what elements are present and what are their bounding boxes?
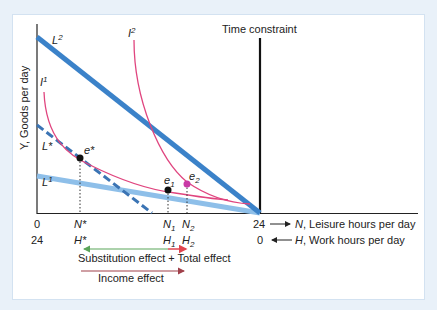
y-axis-label: Y, Goods per day xyxy=(18,65,30,150)
tick-N2: N2 xyxy=(182,218,195,233)
tick-H2: H2 xyxy=(182,234,195,249)
label-L2: L2 xyxy=(52,33,63,46)
time-constraint-label: Time constraint xyxy=(222,23,297,35)
label-estar: e* xyxy=(84,144,95,156)
tick-24: 24 xyxy=(253,218,265,230)
tick-h24: 24 xyxy=(31,234,43,246)
label-I2: I2 xyxy=(128,26,136,39)
tick-H1: H1 xyxy=(163,234,175,249)
tick-N1: N1 xyxy=(163,218,175,233)
label-I1: I1 xyxy=(40,75,48,88)
label-Lstar: L* xyxy=(42,140,53,152)
tick-0: 0 xyxy=(34,218,40,230)
tick-h0: 0 xyxy=(257,234,263,246)
label-e1: e1 xyxy=(164,174,175,189)
work-axis-label: H, Work hours per day xyxy=(295,234,405,246)
tick-Hstar: H* xyxy=(74,234,87,246)
income-effect-label: Income effect xyxy=(98,272,164,284)
leisure-axis-label: N, Leisure hours per day xyxy=(295,218,416,230)
label-e2: e2 xyxy=(189,170,200,185)
effects-label: Substitution effect + Total effect xyxy=(78,252,231,264)
point-estar xyxy=(77,155,84,162)
labor-leisure-chart: Time constraint L2 I2 I1 L* L1 e* e1 e2 … xyxy=(0,0,437,310)
tick-Nstar: N* xyxy=(74,218,87,230)
label-L1: L1 xyxy=(42,175,53,188)
budget-line-L2 xyxy=(37,37,260,213)
